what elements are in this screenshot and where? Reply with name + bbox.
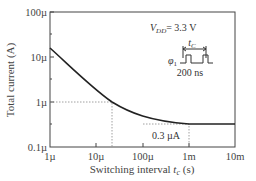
- y-axis-label: Total current (A): [4, 42, 17, 117]
- y-tick-label: 1µ: [36, 97, 47, 108]
- vdd-label: VDD= 3.3 V: [150, 22, 197, 35]
- plot-frame: [50, 12, 235, 147]
- floor-current-label: 0.3 µA: [152, 130, 181, 141]
- clock-waveform: [180, 46, 213, 63]
- x-tick-label: 1m: [182, 151, 195, 162]
- x-axis-ticks: [96, 143, 189, 147]
- x-tick-label: 10µ: [88, 151, 105, 162]
- pulse-width-label: 200 ns: [177, 67, 204, 78]
- y-tick-label: 100µ: [25, 7, 47, 18]
- y-tick-label: 10µ: [30, 52, 47, 63]
- current-curve: [50, 48, 235, 124]
- tc-label: tC: [188, 37, 196, 50]
- x-tick-label: 100µ: [132, 151, 154, 162]
- x-axis-label: Switching interval tc (s): [90, 163, 195, 177]
- y-axis-ticks: [50, 12, 54, 124]
- chart: 100µ 10µ 1µ 0.1µ 1µ 10µ 100µ 1m 10m Swit…: [0, 0, 256, 181]
- x-tick-label: 10m: [226, 151, 245, 162]
- x-tick-label: 1µ: [44, 151, 55, 162]
